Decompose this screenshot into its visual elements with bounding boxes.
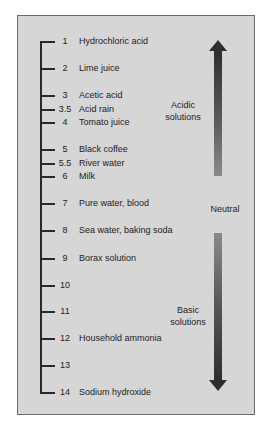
substance-label: Acid rain (79, 104, 114, 114)
arrow-down-icon (209, 380, 227, 391)
substance-label: Hydrochloric acid (79, 36, 148, 46)
ph-value: 7 (50, 198, 80, 208)
ph-value: 3.5 (50, 104, 80, 114)
substance-label: Borax solution (79, 253, 136, 263)
substance-label: Sea water, baking soda (79, 225, 173, 235)
ph-value: 6 (50, 171, 80, 181)
ph-value: 12 (50, 333, 80, 343)
ph-value: 4 (50, 117, 80, 127)
basic-solutions-label: Basic solutions (164, 304, 212, 328)
ph-value: 13 (50, 360, 80, 370)
ph-value: 14 (50, 387, 80, 397)
substance-label: Acetic acid (79, 90, 123, 100)
substance-label: Milk (79, 171, 95, 181)
substance-label: Black coffee (79, 144, 128, 154)
ph-axis-line (40, 41, 42, 393)
ph-value: 1 (50, 36, 80, 46)
ph-value: 8 (50, 225, 80, 235)
acidic-arrow-shaft (214, 50, 222, 176)
ph-value: 2 (50, 63, 80, 73)
ph-value: 11 (50, 306, 80, 316)
substance-label: Tomato juice (79, 117, 130, 127)
substance-label: Lime juice (79, 63, 120, 73)
basic-arrow-shaft (214, 233, 222, 380)
neutral-label: Neutral (202, 203, 248, 215)
ph-value: 3 (50, 90, 80, 100)
acidic-solutions-label: Acidic solutions (158, 99, 208, 123)
ph-value: 5 (50, 144, 80, 154)
substance-label: Household ammonia (79, 333, 162, 343)
ph-value: 9 (50, 253, 80, 263)
substance-label: Sodium hydroxide (79, 387, 151, 397)
substance-label: River water (79, 158, 125, 168)
substance-label: Pure water, blood (79, 198, 149, 208)
ph-value: 10 (50, 280, 80, 290)
ph-value: 5.5 (50, 158, 80, 168)
